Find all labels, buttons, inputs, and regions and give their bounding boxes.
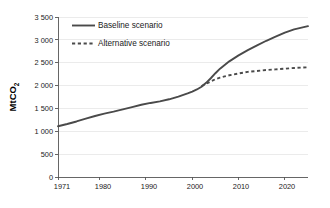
y-axis-title-subscript: 2	[13, 82, 20, 86]
line-chart: 3 500 3 000 2 500 2 000 1 500 1 000 500 …	[0, 0, 330, 208]
legend-label-baseline: Baseline scenario	[98, 21, 163, 30]
series-line-baseline	[58, 26, 308, 126]
y-tick-label: 500	[41, 150, 53, 159]
chart-container: 3 500 3 000 2 500 2 000 1 500 1 000 500 …	[0, 0, 330, 208]
y-tick-label: 3 000	[35, 36, 54, 45]
gridlines	[58, 17, 308, 154]
y-axis-title-text: MtCO2	[7, 82, 20, 111]
y-tick-label: 1 500	[35, 104, 54, 113]
x-tick-label: 2020	[279, 182, 295, 191]
legend-label-alternative: Alternative scenario	[98, 39, 170, 48]
y-axis-title-main: MtCO	[7, 86, 18, 111]
x-tick-label: 1971	[54, 182, 70, 191]
y-tick-label: 2 500	[35, 58, 54, 67]
y-tick-label: 3 500	[35, 13, 54, 22]
x-tick-label: 2000	[187, 182, 203, 191]
y-tick-label: 1 000	[35, 127, 54, 136]
x-tick-label: 1990	[141, 182, 157, 191]
chart-legend: Baseline scenario Alternative scenario	[72, 21, 170, 48]
y-tick-label: 0	[49, 173, 53, 182]
y-axis-title: MtCO2	[7, 82, 20, 111]
x-tick-label: 1980	[95, 182, 111, 191]
y-tick-label: 2 000	[35, 81, 54, 90]
x-tick-label: 2010	[233, 182, 249, 191]
